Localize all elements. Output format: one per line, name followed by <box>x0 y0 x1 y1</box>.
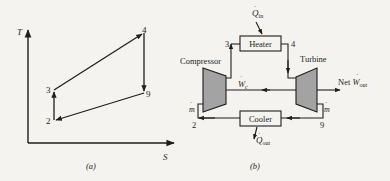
turbine <box>296 68 317 112</box>
net-w-out-label: Net Wout · <box>338 71 368 88</box>
turbine-label: Turbine <box>300 54 327 64</box>
compressor-label: Compressor <box>180 56 221 66</box>
state-3-label: 3 <box>225 39 229 49</box>
q-in-label: Qin · <box>252 3 263 19</box>
point-2-label: 2 <box>46 116 51 126</box>
svg-text:·: · <box>325 99 327 107</box>
compressor <box>203 68 226 112</box>
wc-label: Wc · <box>238 73 248 90</box>
svg-text:Net Wout: Net Wout <box>338 77 368 88</box>
process-3-4 <box>54 34 142 90</box>
q-in-arrow <box>256 22 262 34</box>
m-dot-right-label: m · <box>324 99 330 114</box>
t-axis-label: T <box>17 27 23 37</box>
point-3-label: 3 <box>46 85 51 95</box>
state-2-label: 2 <box>192 120 196 130</box>
svg-text:·: · <box>258 130 260 138</box>
s-axis-label: S <box>163 152 168 162</box>
svg-text:·: · <box>240 73 242 81</box>
panel-a-ts-diagram: T S 2 3 4 9 (a) <box>17 25 174 171</box>
point-4-label: 4 <box>142 25 147 35</box>
panel-b-schematic: Heater Qin · Compressor Turbine 3 4 Wc · <box>180 3 368 171</box>
m-dot-left-label: m · <box>189 99 195 114</box>
state-9-label: 9 <box>320 120 324 130</box>
q-out-label: Qout · <box>256 130 271 146</box>
point-9-label: 9 <box>146 89 151 99</box>
pipe-3 <box>226 44 231 78</box>
svg-text:·: · <box>254 3 256 11</box>
panel-b-caption: (b) <box>250 161 260 171</box>
heater-label: Heater <box>249 39 272 49</box>
panel-a-caption: (a) <box>86 161 96 171</box>
process-9-2 <box>56 93 144 120</box>
figure: T S 2 3 4 9 (a) Heater Qin · Compressor … <box>0 0 390 181</box>
svg-text:·: · <box>190 99 192 107</box>
svg-text:·: · <box>356 71 358 79</box>
cooler-label: Cooler <box>249 114 272 124</box>
state-4-label: 4 <box>291 39 296 49</box>
